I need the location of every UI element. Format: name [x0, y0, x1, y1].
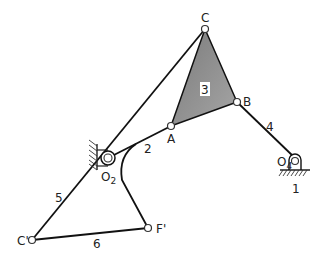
label-a: A: [167, 132, 176, 146]
link-3-triangle: [171, 29, 237, 126]
link-2-curved-arm: [121, 144, 148, 228]
link-2: [108, 126, 171, 158]
joint-f-prime: [145, 225, 152, 232]
label-link-2: 2: [144, 142, 152, 156]
linkage-diagram: C B A O2 O4 C' F' 1 2 3 4 5 6: [0, 0, 326, 262]
label-b: B: [243, 95, 251, 109]
link-6: [32, 228, 148, 240]
label-link-6: 6: [93, 237, 101, 251]
link-5: [32, 29, 205, 240]
label-link-4: 4: [266, 120, 274, 134]
joint-c-prime: [29, 237, 36, 244]
label-link-1: 1: [292, 182, 300, 196]
label-c: C: [201, 11, 209, 25]
label-f-prime: F': [156, 222, 166, 236]
label-o2: O2: [101, 170, 116, 186]
joint-b: [234, 99, 241, 106]
label-link-5: 5: [55, 191, 63, 205]
label-c-prime: C': [17, 234, 29, 248]
label-link-3: 3: [201, 83, 209, 97]
joint-a: [168, 123, 175, 130]
joint-c: [202, 26, 209, 33]
